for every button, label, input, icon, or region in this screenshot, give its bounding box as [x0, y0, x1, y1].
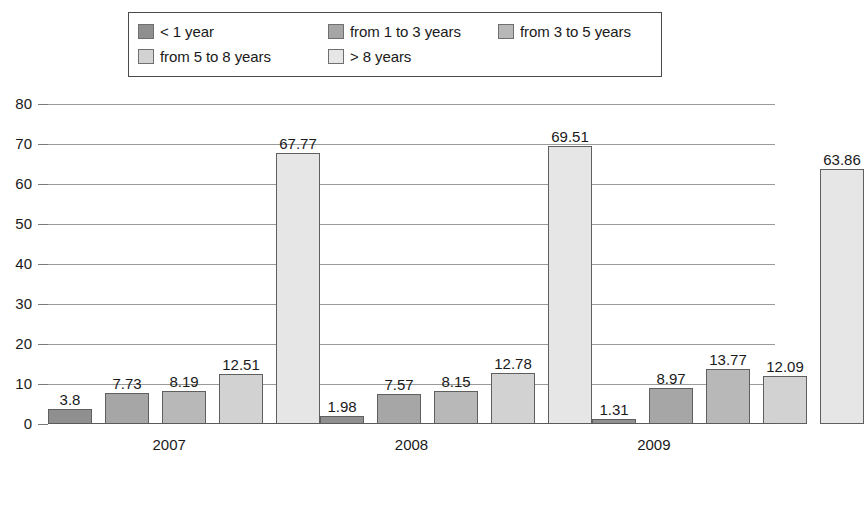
- bar-slot: 12.51: [219, 104, 263, 424]
- bar-slot: 12.09: [763, 104, 807, 424]
- bar-value-label: 7.57: [384, 377, 413, 392]
- bar[interactable]: 67.77: [276, 153, 320, 424]
- bar[interactable]: 8.97: [649, 388, 693, 424]
- y-tick-mark: [38, 224, 48, 225]
- y-tick-mark: [38, 184, 48, 185]
- bar-slot: 13.77: [706, 104, 750, 424]
- legend-swatch-gt-8-years: [328, 49, 344, 64]
- y-tick-mark: [38, 384, 48, 385]
- bar[interactable]: 12.78: [491, 373, 535, 424]
- bar-value-label: 8.15: [441, 374, 470, 389]
- bar-value-label: 1.98: [327, 399, 356, 414]
- bar-value-label: 1.31: [599, 402, 628, 417]
- y-tick-mark: [38, 144, 48, 145]
- bar-value-label: 13.77: [709, 352, 747, 367]
- legend-item-5-to-8-years: from 5 to 8 years: [138, 49, 328, 64]
- bar[interactable]: 8.19: [162, 391, 206, 424]
- axis-baseline: [48, 423, 775, 424]
- bar-value-label: 12.09: [766, 359, 804, 374]
- bar-slot: 12.78: [491, 104, 535, 424]
- y-tick-mark: [38, 344, 48, 345]
- bar-value-label: 63.86: [823, 152, 861, 167]
- bar-group: 3.87.738.1912.5167.77: [48, 104, 320, 424]
- bar[interactable]: 12.09: [763, 376, 807, 424]
- legend-swatch-3-to-5-years: [498, 24, 514, 39]
- bar[interactable]: 7.57: [377, 394, 421, 424]
- y-axis-tick-label: 60: [0, 176, 32, 191]
- legend-label-3-to-5-years: from 3 to 5 years: [520, 24, 631, 39]
- legend-label-gt-8-years: > 8 years: [350, 49, 411, 64]
- bar[interactable]: 69.51: [548, 146, 592, 424]
- legend-swatch-lt-1-year: [138, 24, 154, 39]
- bar[interactable]: 13.77: [706, 369, 750, 424]
- legend-item-1-to-3-years: from 1 to 3 years: [328, 24, 498, 39]
- bar-slot: 7.73: [105, 104, 149, 424]
- category-label: 2009: [533, 436, 775, 454]
- y-axis-tick-label: 10: [0, 376, 32, 391]
- y-tick-mark: [38, 264, 48, 265]
- bar-value-label: 8.19: [169, 374, 198, 389]
- legend-swatch-1-to-3-years: [328, 24, 344, 39]
- bar-slot: 63.86: [820, 104, 864, 424]
- legend-swatch-5-to-8-years: [138, 49, 154, 64]
- chart-plot-area: 01020304050607080 3.87.738.1912.5167.771…: [48, 104, 775, 424]
- bar-slot: 1.98: [320, 104, 364, 424]
- bar[interactable]: 3.8: [48, 409, 92, 424]
- y-axis-tick-label: 20: [0, 336, 32, 351]
- bar-groups: 3.87.738.1912.5167.771.987.578.1512.7869…: [48, 104, 775, 424]
- bar-slot: 8.19: [162, 104, 206, 424]
- y-tick-mark: [38, 104, 48, 105]
- bar-value-label: 12.78: [494, 356, 532, 371]
- bar-value-label: 69.51: [551, 129, 589, 144]
- bar-value-label: 67.77: [279, 136, 317, 151]
- category-label: 2007: [48, 436, 290, 454]
- legend-item-gt-8-years: > 8 years: [328, 49, 411, 64]
- y-axis-tick-label: 0: [0, 416, 32, 431]
- bar-value-label: 3.8: [60, 392, 81, 407]
- bar-slot: 8.15: [434, 104, 478, 424]
- legend-label-5-to-8-years: from 5 to 8 years: [160, 49, 271, 64]
- legend-row-2: from 5 to 8 years > 8 years: [138, 44, 652, 69]
- category-axis-labels: 200720082009: [48, 436, 775, 454]
- bar-group: 1.987.578.1512.7869.51: [320, 104, 592, 424]
- legend-label-1-to-3-years: from 1 to 3 years: [350, 24, 461, 39]
- y-axis-tick-label: 70: [0, 136, 32, 151]
- y-axis-tick-label: 30: [0, 296, 32, 311]
- bar[interactable]: 63.86: [820, 169, 864, 424]
- bar-group: 1.318.9713.7712.0963.86: [592, 104, 864, 424]
- y-axis-tick-label: 50: [0, 216, 32, 231]
- chart-legend: < 1 year from 1 to 3 years from 3 to 5 y…: [128, 12, 662, 77]
- bar-slot: 7.57: [377, 104, 421, 424]
- legend-row-1: < 1 year from 1 to 3 years from 3 to 5 y…: [138, 19, 652, 44]
- legend-item-3-to-5-years: from 3 to 5 years: [498, 24, 631, 39]
- bar-slot: 8.97: [649, 104, 693, 424]
- legend-label-lt-1-year: < 1 year: [160, 24, 214, 39]
- y-tick-mark: [38, 304, 48, 305]
- bar-slot: 1.31: [592, 104, 636, 424]
- legend-item-lt-1-year: < 1 year: [138, 24, 328, 39]
- bar-value-label: 7.73: [112, 376, 141, 391]
- y-axis-tick-label: 40: [0, 256, 32, 271]
- bar[interactable]: 12.51: [219, 374, 263, 424]
- bar-slot: 67.77: [276, 104, 320, 424]
- y-axis-tick-label: 80: [0, 96, 32, 111]
- bar[interactable]: 8.15: [434, 391, 478, 424]
- bar-slot: 69.51: [548, 104, 592, 424]
- category-label: 2008: [290, 436, 532, 454]
- bar-value-label: 8.97: [656, 371, 685, 386]
- bar-slot: 3.8: [48, 104, 92, 424]
- bar-value-label: 12.51: [222, 357, 260, 372]
- y-tick-mark: [38, 424, 48, 425]
- bar[interactable]: 7.73: [105, 393, 149, 424]
